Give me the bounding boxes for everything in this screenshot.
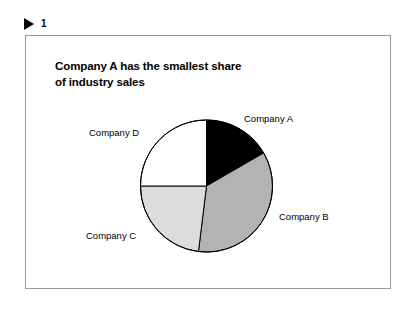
pie-label-company-d: Company D	[89, 128, 139, 138]
pie-label-company-c: Company C	[86, 231, 136, 241]
pie-slice-company-d	[141, 120, 207, 186]
triangle-right-icon	[24, 18, 34, 30]
pie-slice-company-c	[141, 186, 207, 252]
pie-label-company-b: Company B	[279, 212, 329, 222]
exhibit-frame: Company A has the smallest share of indu…	[25, 35, 391, 289]
pie-chart-svg	[26, 36, 392, 290]
pie-label-company-a: Company A	[244, 114, 293, 124]
header-number: 1	[41, 19, 47, 29]
header-marker: 1	[24, 17, 47, 31]
pie-chart: Company A Company B Company C Company D	[26, 36, 392, 290]
page-root: 1 Company A has the smallest share of in…	[0, 0, 414, 309]
